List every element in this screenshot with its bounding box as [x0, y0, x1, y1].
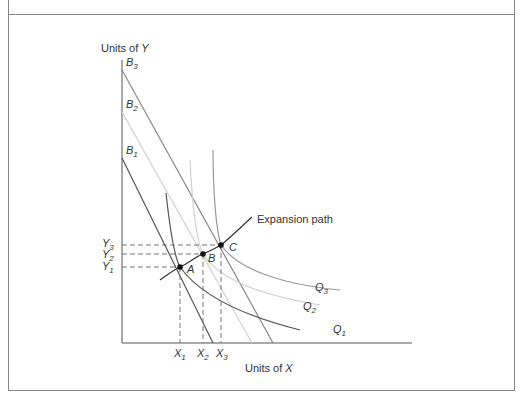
expansion-path-label: Expansion path [257, 213, 333, 225]
x-tick-x2: X2 [196, 347, 209, 362]
point-a [177, 264, 183, 270]
budget-label-b3: B3 [126, 56, 138, 71]
point-label-a: A [186, 263, 194, 275]
point-b [200, 251, 206, 257]
figure-frame: Units of Y Units of X B3 B2 B1 Q1 Q2 Q3 … [0, 0, 525, 400]
point-label-c: C [229, 241, 237, 253]
x-tick-x3: X3 [215, 347, 228, 362]
x-tick-x1: X1 [173, 347, 186, 362]
budget-label-b1: B1 [126, 144, 138, 159]
point-c [218, 242, 224, 248]
x-axis-label: Units of X [245, 362, 293, 374]
isoquant-diagram: Units of Y Units of X B3 B2 B1 Q1 Q2 Q3 … [0, 0, 525, 400]
frame-border [9, 15, 515, 391]
y-axis-label: Units of Y [101, 42, 149, 54]
point-label-b: B [208, 252, 215, 264]
isoquant-q2 [190, 160, 320, 305]
budget-label-b2: B2 [126, 98, 138, 113]
isoquant-label-q3: Q3 [315, 281, 329, 296]
isoquant-label-q2: Q2 [303, 300, 317, 315]
isoquant-label-q1: Q1 [333, 323, 346, 338]
budget-line-b3 [122, 70, 273, 343]
budget-line-b2 [122, 112, 252, 343]
